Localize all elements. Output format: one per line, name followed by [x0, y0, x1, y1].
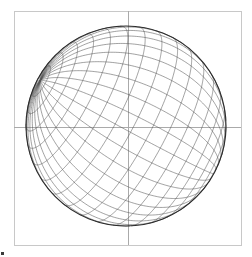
figure-root: [0, 0, 252, 257]
corner-mark: [1, 252, 4, 255]
globe-graticule-chart: [0, 0, 252, 257]
figure-background: [0, 0, 252, 257]
